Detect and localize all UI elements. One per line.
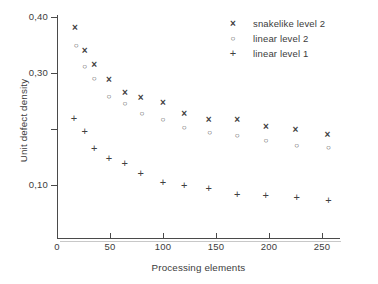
y-axis-title: Unit defect density	[18, 51, 29, 191]
data-point-marker: ○	[120, 98, 129, 109]
legend-symbol-icon: ○	[228, 31, 238, 46]
x-axis-title: Processing elements	[57, 262, 340, 273]
x-axis-tick	[163, 233, 164, 239]
data-point-marker: ○	[233, 130, 242, 141]
data-point-marker: +	[324, 195, 333, 206]
data-point-marker: ×	[159, 97, 168, 108]
data-point-marker: +	[180, 180, 189, 191]
y-axis-tick-label-text: 0,30	[29, 67, 48, 78]
data-point-marker: ○	[104, 91, 113, 102]
x-axis-tick	[269, 233, 270, 239]
data-point-marker: ×	[120, 87, 129, 98]
y-axis-tick	[51, 185, 57, 186]
data-point-marker: +	[233, 189, 242, 200]
page-caption-strip	[0, 276, 378, 284]
data-point-marker: +	[204, 183, 213, 194]
legend-symbol-icon: ×	[228, 16, 238, 31]
x-axis-line	[57, 238, 340, 239]
legend-entry-label: linear level 2	[253, 31, 308, 46]
y-axis-tick-label-text: 0,10	[29, 179, 48, 190]
data-point-marker: ○	[324, 142, 333, 153]
data-point-marker: ×	[104, 74, 113, 85]
x-axis-tick-label: 200	[261, 241, 277, 252]
data-point-marker: ○	[72, 40, 81, 51]
x-axis-shadow	[60, 241, 341, 242]
chart-legend: ×snakelike level 2○linear level 2+linear…	[228, 16, 346, 61]
y-axis-tick-label-text: 0,40	[29, 11, 48, 22]
x-axis-tick	[110, 233, 111, 239]
y-axis-tick-label: 0,40	[0, 11, 48, 23]
legend-entry: ○linear level 2	[228, 31, 346, 46]
data-point-marker: ×	[136, 92, 145, 103]
data-point-marker: +	[70, 113, 79, 124]
data-point-marker: ○	[205, 127, 214, 138]
figure-scatter-chart: 0,400,300,10 050100150200250 ×××××××××××…	[0, 0, 378, 284]
data-point-marker: ○	[80, 61, 89, 72]
data-point-marker: ×	[71, 22, 80, 33]
x-axis-tick	[216, 233, 217, 239]
x-axis-tick	[322, 233, 323, 239]
data-point-marker: ×	[323, 129, 332, 140]
y-axis-line	[57, 15, 58, 239]
data-point-marker: +	[292, 192, 301, 203]
data-point-marker: ×	[233, 114, 242, 125]
data-point-marker: ○	[159, 114, 168, 125]
data-point-marker: ×	[204, 114, 213, 125]
legend-entry-label: snakelike level 2	[253, 16, 325, 31]
legend-symbol-icon: +	[228, 46, 238, 61]
data-point-marker: ×	[180, 108, 189, 119]
x-axis-tick-label: 100	[155, 241, 171, 252]
x-axis-tick-label: 150	[208, 241, 224, 252]
data-point-marker: +	[261, 190, 270, 201]
data-point-marker: ×	[80, 45, 89, 56]
x-axis-tick-label: 0	[54, 241, 59, 252]
data-point-marker: +	[90, 143, 99, 154]
data-point-marker: ×	[90, 59, 99, 70]
data-point-marker: +	[104, 153, 113, 164]
data-point-marker: ×	[291, 124, 300, 135]
legend-entry: ×snakelike level 2	[228, 16, 346, 31]
data-point-marker: +	[159, 177, 168, 188]
y-axis-tick	[51, 129, 57, 130]
x-axis-tick-label: 250	[314, 241, 330, 252]
data-point-marker: +	[120, 158, 129, 169]
data-point-marker: ○	[292, 140, 301, 151]
y-axis-tick	[51, 73, 57, 74]
data-point-marker: ○	[180, 122, 189, 133]
data-point-marker: +	[136, 168, 145, 179]
y-axis-tick	[51, 17, 57, 18]
data-point-marker: ×	[261, 121, 270, 132]
data-point-marker: ○	[90, 73, 99, 84]
legend-entry: +linear level 1	[228, 46, 346, 61]
x-axis-tick-label: 50	[105, 241, 116, 252]
data-point-marker: +	[80, 126, 89, 137]
data-point-marker: ○	[137, 108, 146, 119]
legend-entry-label: linear level 1	[253, 46, 308, 61]
data-point-marker: ○	[261, 135, 270, 146]
